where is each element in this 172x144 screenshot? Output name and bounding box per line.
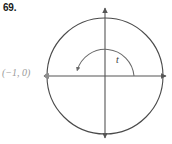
point-coordinate-label: (−1, 0) — [2, 67, 30, 79]
unit-circle-figure: 69. (−1, 0) t — [0, 0, 172, 144]
angle-variable-label: t — [116, 54, 119, 66]
point-marker-negative-one-zero — [45, 74, 50, 79]
angle-arc — [77, 49, 134, 76]
